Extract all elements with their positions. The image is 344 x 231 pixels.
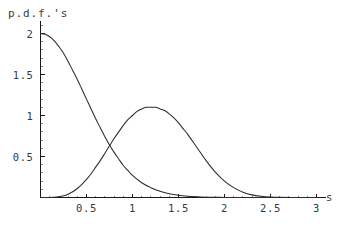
plot-title: p.d.f.'s: [8, 7, 68, 20]
x-axis-tick-labels: 0.511.522.53: [76, 202, 320, 214]
y-tick-label: 2: [27, 28, 34, 40]
x-tick-label: 3: [313, 202, 320, 214]
series-bell-pdf-curve: [41, 107, 317, 197]
x-tick-label: 2: [221, 202, 228, 214]
y-tick-label: 1.5: [13, 69, 34, 81]
series-decaying-pdf-curve: [41, 34, 317, 198]
y-axis-major-ticks: [41, 34, 45, 157]
x-tick-label: 1: [129, 202, 136, 214]
y-tick-label: 1: [27, 110, 34, 122]
x-tick-label: 0.5: [76, 202, 97, 214]
x-tick-label: 2.5: [260, 202, 281, 214]
x-tick-label: 1.5: [168, 202, 189, 214]
chart-figure: 0.511.522.53 0.511.52 p.d.f.'s s: [0, 0, 344, 231]
x-axis-label: s: [326, 191, 333, 203]
y-tick-label: 0.5: [13, 151, 34, 163]
pdf-line-chart: 0.511.522.53 0.511.52 p.d.f.'s s: [0, 0, 344, 231]
y-axis-tick-labels: 0.511.52: [13, 28, 34, 163]
